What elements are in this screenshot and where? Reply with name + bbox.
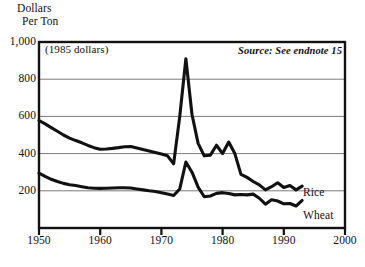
series-label-rice: Rice: [303, 186, 324, 198]
units-annotation: (1985 dollars): [45, 43, 108, 55]
plot-frame: [39, 42, 345, 228]
x-tick-label: 1950: [16, 234, 62, 246]
x-tick-label: 1970: [138, 234, 184, 246]
y-tick-label: 200: [2, 185, 36, 197]
y-tick-label: 800: [2, 73, 36, 85]
y-tick-label: 400: [2, 148, 36, 160]
x-tick-label: 1990: [261, 234, 307, 246]
series-label-wheat: Wheat: [303, 209, 334, 221]
data-series-lines: [39, 59, 302, 206]
plot-area: [0, 0, 365, 267]
y-tick-label: 600: [2, 110, 36, 122]
x-tick-label: 1980: [200, 234, 246, 246]
rice-wheat-price-chart: DollarsPer Ton 2004006008001,000 1950196…: [0, 0, 365, 267]
x-tick-label: 2000: [322, 234, 365, 246]
y-axis-tick-labels: 2004006008001,000: [0, 0, 36, 267]
x-axis-tick-labels: 195019601970198019902000: [0, 234, 365, 254]
x-tick-label: 1960: [77, 234, 123, 246]
source-annotation: Source: See endnote 15: [238, 45, 342, 57]
y-tick-label: 1,000: [2, 36, 36, 48]
